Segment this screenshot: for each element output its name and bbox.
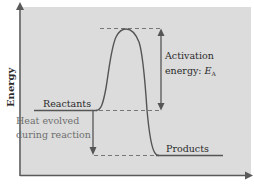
y-axis-arrow-icon [16,2,24,10]
plot-background [21,7,251,175]
energy-diagram: Energy Reactants Products Activation [0,0,254,185]
reactants-label: Reactants [43,98,91,109]
y-axis-label: Energy [5,66,16,107]
svg-text:Activation: Activation [164,50,214,61]
svg-text:during reaction: during reaction [16,129,91,140]
svg-text:Heat evolved: Heat evolved [16,115,79,126]
svg-text:energy: EA: energy: EA [165,65,217,77]
products-label: Products [166,143,209,154]
